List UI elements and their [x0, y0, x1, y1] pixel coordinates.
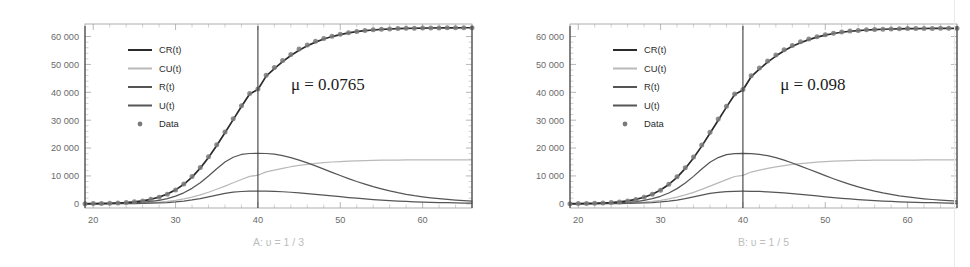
figure-container: 2030405060010 00020 00030 00040 00050 00… [0, 0, 970, 267]
legend-label: R(t) [644, 81, 660, 92]
data-point [732, 91, 737, 96]
plot-background [85, 24, 472, 208]
data-point [724, 104, 729, 109]
data-point [362, 28, 367, 33]
data-point [453, 25, 458, 30]
panel-caption: B: υ = 1 / 5 [738, 236, 789, 248]
data-point [617, 199, 622, 204]
data-point [124, 200, 129, 205]
data-point [461, 25, 466, 30]
data-point [913, 26, 918, 31]
data-point [625, 198, 630, 203]
data-point [880, 27, 885, 32]
data-point [773, 52, 778, 57]
mu-annotation: μ = 0.098 [780, 75, 845, 94]
data-point [165, 192, 170, 197]
data-point [239, 103, 244, 108]
y-tick-label: 0 [74, 199, 79, 209]
y-tick-label: 60 000 [51, 32, 79, 42]
data-point [757, 66, 762, 71]
data-point [173, 188, 178, 193]
data-point [297, 47, 302, 52]
data-point [716, 117, 721, 122]
data-point [321, 36, 326, 41]
data-point [181, 182, 186, 187]
y-tick-label: 10 000 [536, 171, 564, 181]
data-point [395, 26, 400, 31]
x-tick-label: 50 [820, 215, 830, 225]
y-tick-label: 30 000 [51, 116, 79, 126]
data-point [806, 37, 811, 42]
legend-label: Data [644, 118, 665, 129]
data-point [584, 201, 589, 206]
data-point [749, 73, 754, 78]
data-point [148, 197, 153, 202]
data-point [272, 65, 277, 70]
chart-panel-a: 2030405060010 00020 00030 00040 00050 00… [0, 0, 485, 267]
data-point [412, 26, 417, 31]
data-point [930, 26, 935, 31]
data-point [839, 29, 844, 34]
y-tick-label: 40 000 [536, 88, 564, 98]
chart-panel-b: 2030405060010 00020 00030 00040 00050 00… [485, 0, 970, 267]
data-point [707, 130, 712, 135]
page-edge-artifact [954, 0, 955, 267]
data-point [338, 32, 343, 37]
data-point [790, 43, 795, 48]
data-point [140, 198, 145, 203]
x-tick-label: 60 [902, 215, 912, 225]
legend-label: U(t) [159, 100, 175, 111]
data-point [600, 201, 605, 206]
legend-label: U(t) [644, 100, 660, 111]
data-point [387, 26, 392, 31]
data-point [346, 30, 351, 35]
data-point [650, 192, 655, 197]
data-point [905, 26, 910, 31]
data-point [946, 26, 951, 31]
data-point [823, 32, 828, 37]
plot-background [570, 24, 957, 208]
data-point [675, 174, 680, 179]
data-point [354, 29, 359, 34]
y-tick-label: 0 [559, 199, 564, 209]
data-point [765, 59, 770, 64]
data-point [445, 25, 450, 30]
data-point [897, 26, 902, 31]
data-point [222, 129, 227, 134]
data-point [831, 31, 836, 36]
y-tick-label: 20 000 [536, 143, 564, 153]
data-point [190, 174, 195, 179]
data-point [666, 182, 671, 187]
legend-swatch-dot [138, 122, 143, 127]
data-point [872, 27, 877, 32]
y-tick-label: 50 000 [536, 60, 564, 70]
data-point [633, 197, 638, 202]
legend-label: R(t) [159, 81, 175, 92]
data-point [592, 201, 597, 206]
data-point [864, 27, 869, 32]
x-tick-label: 60 [417, 215, 427, 225]
data-point [889, 26, 894, 31]
legend-swatch-dot [623, 122, 628, 127]
legend-label: CR(t) [644, 44, 666, 55]
data-point [683, 165, 688, 170]
data-point [938, 26, 943, 31]
data-point [157, 195, 162, 200]
data-point [91, 201, 96, 206]
y-tick-label: 40 000 [51, 88, 79, 98]
data-point [305, 42, 310, 47]
data-point [214, 142, 219, 147]
data-point [782, 47, 787, 52]
x-tick-label: 40 [738, 215, 748, 225]
x-tick-label: 30 [170, 215, 180, 225]
data-point [330, 34, 335, 39]
y-tick-label: 30 000 [536, 116, 564, 126]
data-point [99, 201, 104, 206]
data-point [247, 91, 252, 96]
data-point [922, 26, 927, 31]
legend-label: CU(t) [644, 63, 666, 74]
data-point [691, 154, 696, 159]
data-point [642, 195, 647, 200]
legend-label: Data [159, 118, 180, 129]
data-point [231, 116, 236, 121]
